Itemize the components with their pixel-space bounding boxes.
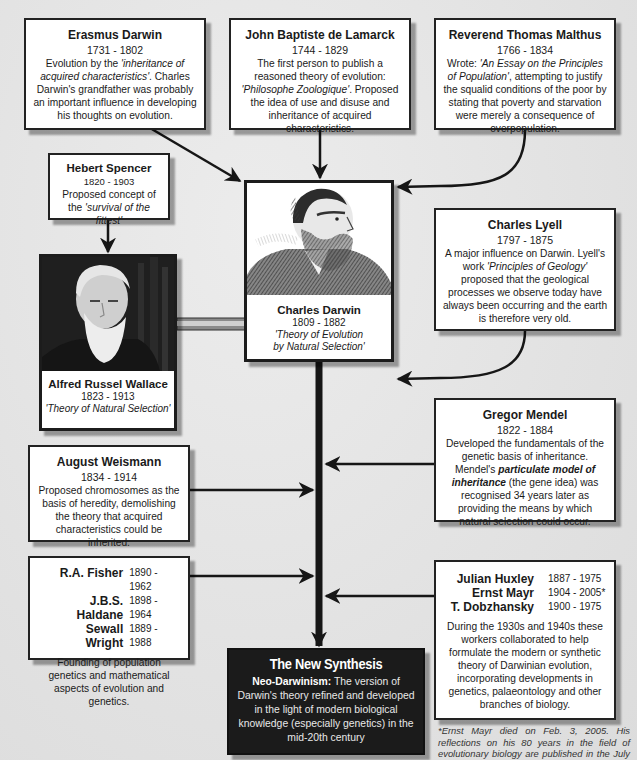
darwin-caption: Charles Darwin 1809 - 1882 'Theory of Ev… — [247, 299, 391, 359]
person-name: John Baptiste de Lamarck — [237, 27, 403, 43]
box-mendel: Gregor Mendel 1822 - 1884 Developed the … — [434, 398, 616, 522]
person-name: J.B.S. Haldane — [48, 594, 123, 622]
person-description: The first person to publish a reasoned t… — [237, 57, 403, 135]
person-description-line1: 'Theory of Evolution — [247, 329, 391, 341]
arrow-malthus-to-darwin — [398, 130, 525, 187]
person-dates: 1822 - 1884 — [442, 424, 608, 437]
box-erasmus-darwin: Erasmus Darwin 1731 - 1802 Evolution by … — [24, 18, 206, 130]
person-description: Evolution by the 'inheritance of acquire… — [32, 57, 198, 122]
person-name: Charles Darwin — [247, 303, 391, 317]
person-name: Sewall Wright — [48, 622, 123, 650]
portrait-alfred-russel-wallace: Alfred Russel Wallace 1823 - 1913 'Theor… — [39, 254, 177, 431]
person-description: A major influence on Darwin. Lyell's wor… — [442, 247, 608, 325]
person-dates: 1904 - 2005* — [548, 586, 606, 600]
person-dates: 1744 - 1829 — [237, 44, 403, 57]
box-lamarck: John Baptiste de Lamarck 1744 - 1829 The… — [229, 18, 411, 130]
person-dates: 1834 - 1914 — [36, 471, 182, 484]
person-name: Charles Lyell — [442, 217, 608, 233]
synthesis-title: The New Synthesis — [242, 655, 409, 673]
box-weismann: August Weismann 1834 - 1914 Proposed chr… — [28, 445, 190, 542]
person-dates: 1887 - 1975 — [548, 572, 606, 586]
box-lyell: Charles Lyell 1797 - 1875 A major influe… — [434, 208, 616, 331]
person-name: Erasmus Darwin — [32, 27, 198, 43]
person-dates: 1823 - 1913 — [42, 391, 174, 403]
darwin-engraving-image — [247, 183, 391, 295]
person-dates: 1898 - 1964 — [129, 594, 180, 622]
person-name: Reverend Thomas Malthus — [442, 27, 608, 43]
box-malthus: Reverend Thomas Malthus 1766 - 1834 Wrot… — [434, 18, 616, 130]
person-name: Hebert Spencer — [56, 161, 162, 175]
group-description: Founding of population genetics and math… — [38, 656, 180, 708]
arrow-lyell-to-darwin — [398, 331, 525, 379]
person-name: Julian Huxley — [450, 572, 534, 586]
person-dates: 1890 - 1962 — [129, 566, 180, 594]
synthesis-description: Neo-Darwinism: The version of Darwin's t… — [235, 675, 417, 745]
person-dates: 1797 - 1875 — [442, 234, 608, 247]
person-dates: 1809 - 1882 — [247, 317, 391, 329]
person-description: Proposed concept of the 'survival of the… — [56, 188, 162, 227]
wallace-photo-image — [42, 257, 174, 371]
box-population-geneticists: R.A. Fisher 1890 - 1962 J.B.S. Haldane 1… — [28, 556, 190, 660]
wallace-caption: Alfred Russel Wallace 1823 - 1913 'Theor… — [42, 373, 174, 428]
person-description-line2: by Natural Selection' — [247, 341, 391, 353]
person-description: Wrote: 'An Essay on the Principles of Po… — [442, 57, 608, 135]
person-name: T. Dobzhansky — [450, 600, 534, 614]
person-description: Proposed chromosomes as the basis of her… — [36, 484, 182, 549]
people-list: Julian Huxley 1887 - 1975 Ernst Mayr 190… — [450, 572, 606, 614]
person-name: August Weismann — [36, 454, 182, 470]
person-dates: 1731 - 1802 — [32, 44, 198, 57]
people-list: R.A. Fisher 1890 - 1962 J.B.S. Haldane 1… — [48, 566, 180, 650]
person-name: Ernst Mayr — [450, 586, 534, 600]
person-dates: 1820 - 1903 — [56, 176, 162, 188]
footnote-ernst-mayr: *Ernst Mayr died on Feb. 3, 2005. His re… — [438, 725, 630, 760]
portrait-charles-darwin: Charles Darwin 1809 - 1882 'Theory of Ev… — [244, 180, 394, 362]
person-name: R.A. Fisher — [48, 566, 123, 594]
person-dates: 1766 - 1834 — [442, 44, 608, 57]
person-description: Developed the fundamentals of the geneti… — [442, 437, 608, 528]
person-dates: 1889 - 1988 — [129, 622, 180, 650]
box-modern-synthesis-workers: Julian Huxley 1887 - 1975 Ernst Mayr 190… — [434, 560, 616, 720]
box-spencer: Hebert Spencer 1820 - 1903 Proposed conc… — [48, 153, 170, 220]
person-description: 'Theory of Natural Selection' — [42, 403, 174, 415]
group-description: During the 1930s and 1940s these workers… — [444, 620, 606, 711]
person-name: Gregor Mendel — [442, 407, 608, 423]
box-new-synthesis: The New Synthesis Neo-Darwinism: The ver… — [227, 648, 425, 755]
person-name: Alfred Russel Wallace — [42, 377, 174, 391]
person-dates: 1900 - 1975 — [548, 600, 606, 614]
